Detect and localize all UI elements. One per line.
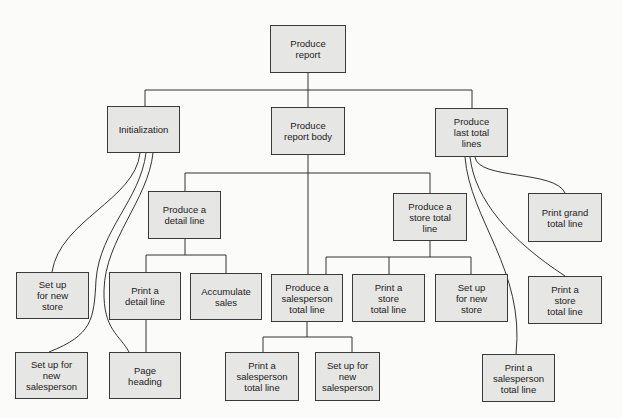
node-produce-detail-line: Produce a detail line <box>148 191 221 239</box>
node-produce-last-total-lines: Produce last total lines <box>435 108 508 157</box>
node-print-salesperson-total-line-mid: Print a salesperson total line <box>225 352 299 401</box>
node-page-heading: Page heading <box>109 352 181 399</box>
node-setup-new-salesperson-left: Set up for new salesperson <box>15 352 88 399</box>
node-print-detail-line: Print a detail line <box>109 272 181 320</box>
node-print-grand-total-line: Print grand total line <box>528 193 602 242</box>
node-produce-report-body: Produce report body <box>271 107 345 155</box>
structure-chart: Produce report Initialization Produce re… <box>0 0 622 418</box>
node-produce-store-total-line: Produce a store total line <box>393 193 467 241</box>
node-accumulate-sales: Accumulate sales <box>190 273 262 320</box>
node-setup-new-store-left: Set up for new store <box>16 272 89 319</box>
node-produce-report: Produce report <box>270 25 346 73</box>
node-print-salesperson-total-line-right: Print a salesperson total line <box>482 354 555 402</box>
node-produce-salesperson-total-line: Produce a salesperson total line <box>271 274 343 322</box>
node-print-store-total-line-mid: Print a store total line <box>352 274 425 322</box>
node-print-store-total-line-right: Print a store total line <box>528 276 602 324</box>
node-setup-new-salesperson-mid: Set up for new salesperson <box>315 352 380 401</box>
node-initialization: Initialization <box>107 106 180 153</box>
node-setup-new-store-mid: Set up for new store <box>435 274 508 322</box>
